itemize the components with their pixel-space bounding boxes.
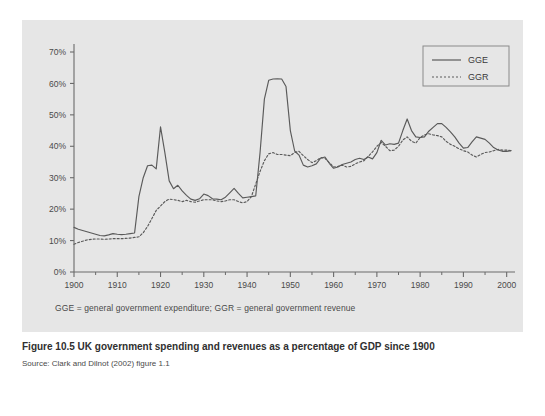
series-line-ggr xyxy=(74,134,511,245)
x-tick-label: 1970 xyxy=(367,280,386,290)
y-tick-label: 30% xyxy=(49,173,66,183)
x-tick-label: 1930 xyxy=(194,280,213,290)
legend-box xyxy=(423,46,509,86)
y-tick-label: 50% xyxy=(49,110,66,120)
x-tick-label: 1910 xyxy=(108,280,127,290)
x-tick-label: 1900 xyxy=(65,280,84,290)
chart-plot: 0%10%20%30%40%50%60%70%19001910192019301… xyxy=(22,20,523,332)
series-line-gge xyxy=(74,79,511,236)
y-tick-label: 40% xyxy=(49,141,66,151)
x-tick-label: 1990 xyxy=(454,280,473,290)
x-tick-label: 2000 xyxy=(497,280,516,290)
x-tick-label: 1920 xyxy=(151,280,170,290)
y-tick-label: 70% xyxy=(49,47,66,57)
chart-panel: 0%10%20%30%40%50%60%70%19001910192019301… xyxy=(22,20,523,332)
legend-label-ggr: GGR xyxy=(468,72,489,82)
x-tick-label: 1960 xyxy=(324,280,343,290)
y-tick-label: 10% xyxy=(49,236,66,246)
figure-caption-source: Source: Clark and Dilnot (2002) figure 1… xyxy=(22,357,523,370)
y-tick-label: 60% xyxy=(49,79,66,89)
figure-root: 0%10%20%30%40%50%60%70%19001910192019301… xyxy=(0,0,545,416)
y-tick-label: 20% xyxy=(49,204,66,214)
figure-caption-title: Figure 10.5 UK government spending and r… xyxy=(22,340,523,354)
legend-label-gge: GGE xyxy=(468,55,488,65)
x-tick-label: 1980 xyxy=(411,280,430,290)
x-tick-label: 1940 xyxy=(238,280,257,290)
caption-block: Figure 10.5 UK government spending and r… xyxy=(22,340,523,370)
y-tick-label: 0% xyxy=(54,267,67,277)
axis-note: GGE = general government expenditure; GG… xyxy=(55,303,355,313)
x-tick-label: 1950 xyxy=(281,280,300,290)
